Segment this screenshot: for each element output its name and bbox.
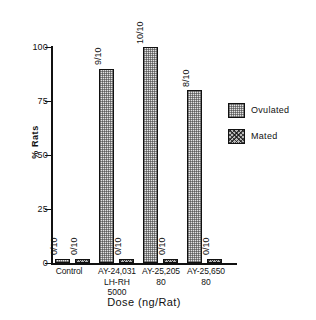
bar-value-label: 8/10 <box>181 69 191 87</box>
bar-control-ovulated: 0/10 <box>55 47 70 263</box>
caption-line-2: LH-RH <box>92 277 142 288</box>
bar-value-label: 0/10 <box>113 237 123 255</box>
x-group-caption-control: Control <box>44 266 94 277</box>
bar-rect <box>143 47 158 263</box>
x-group-caption-ay24031: AY-24,031 LH-RH 5000 <box>92 266 142 298</box>
y-tick-label-50: 50 <box>38 150 48 160</box>
y-tick-label-25: 25 <box>38 204 48 214</box>
legend: Ovulated Mated <box>228 100 289 152</box>
caption-line-1: AY-25,650 <box>180 266 232 277</box>
caption-line-3: 80 <box>180 277 232 288</box>
bar-ay25205-mated: 0/10 <box>163 47 178 263</box>
x-group-caption-ay25650: AY-25,650 80 <box>180 266 232 287</box>
bar-rect <box>163 259 178 263</box>
bar-value-label: 9/10 <box>93 47 103 65</box>
caption-line-1: AY-25,205 <box>136 266 186 277</box>
bar-ay24031-ovulated: 9/10 <box>99 47 114 263</box>
bar-ay25650-ovulated: 8/10 <box>187 47 202 263</box>
caption-line-1: AY-24,031 <box>92 266 142 277</box>
bar-value-label: 0/10 <box>201 237 211 255</box>
bar-value-label: 0/10 <box>157 237 167 255</box>
bar-value-label: 0/10 <box>69 237 79 255</box>
bar-value-label: 10/10 <box>135 21 145 44</box>
bar-rect <box>207 259 222 263</box>
y-axis-title: % Rats <box>30 112 40 172</box>
bar-rect <box>187 90 202 263</box>
x-axis-title: Dose (ng/Rat) <box>51 296 237 308</box>
bar-ay25650-mated: 0/10 <box>207 47 222 263</box>
bar-chart-figure: % Rats 0 25 50 75 100 0/10 <box>0 0 316 320</box>
bar-rect <box>55 259 70 263</box>
bar-ay25205-ovulated: 10/10 <box>143 47 158 263</box>
bar-rect <box>99 69 114 263</box>
bar-ay24031-mated: 0/10 <box>119 47 134 263</box>
caption-line-3: 80 <box>136 277 186 288</box>
legend-label-mated: Mated <box>251 131 278 141</box>
plot-area: 0 25 50 75 100 0/10 0/10 9/ <box>51 47 221 263</box>
x-axis-line <box>51 263 237 265</box>
bar-control-mated: 0/10 <box>75 47 90 263</box>
mated-swatch-icon <box>228 129 245 144</box>
bar-value-label: 0/10 <box>49 237 59 255</box>
bar-rect <box>119 259 134 263</box>
ovulated-swatch-icon <box>228 103 245 118</box>
legend-label-ovulated: Ovulated <box>251 105 289 115</box>
y-tick-label-75: 75 <box>38 96 48 106</box>
x-group-caption-ay25205: AY-25,205 80 <box>136 266 186 287</box>
caption-line-1: Control <box>44 266 94 277</box>
bar-rect <box>75 259 90 263</box>
legend-item-mated: Mated <box>228 126 289 146</box>
legend-item-ovulated: Ovulated <box>228 100 289 120</box>
y-tick-label-100: 100 <box>32 42 48 52</box>
